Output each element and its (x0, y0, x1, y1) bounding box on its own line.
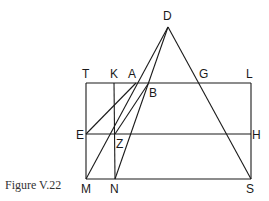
point-label-D: D (163, 9, 172, 23)
segment-DS (168, 27, 251, 179)
point-label-A: A (128, 67, 136, 81)
point-labels: DTKABGLEZHMNS (76, 9, 261, 196)
point-label-Z: Z (116, 137, 123, 151)
segment-DM (86, 27, 168, 179)
point-label-M: M (81, 182, 91, 196)
segment-DN (115, 27, 168, 179)
segment-ZB (115, 84, 148, 134)
figure-caption: Figure V.22 (5, 178, 61, 192)
point-label-N: N (110, 182, 119, 196)
point-label-T: T (82, 67, 90, 81)
geometry-figure: DTKABGLEZHMNS Figure V.22 (0, 0, 269, 201)
point-label-E: E (76, 128, 84, 142)
segment-EA (86, 83, 136, 134)
point-label-H: H (252, 128, 261, 142)
point-label-G: G (199, 67, 208, 81)
point-label-B: B (149, 86, 157, 100)
figure-lines (86, 27, 251, 179)
segment-KN (114, 83, 115, 179)
point-label-K: K (110, 67, 118, 81)
point-label-L: L (246, 67, 253, 81)
point-label-S: S (246, 182, 254, 196)
